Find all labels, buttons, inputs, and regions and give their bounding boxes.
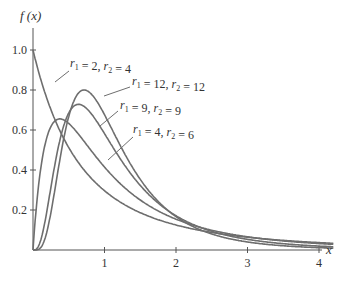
y-tick-label: 0.6 [12,123,27,137]
y-tick-label: 1.0 [12,43,27,57]
annotation-label: r1 = 4, r2 = 6 [133,122,194,142]
annotation-leader [108,137,133,160]
x-tick-label: 1 [102,256,108,270]
x-tick-label: 4 [316,256,322,270]
curve-r1-2-r2-4 [33,50,333,243]
x-tick-label: 2 [173,256,179,270]
annotation-label: r1 = 12, r2 = 12 [132,74,205,94]
x-axis-title: x [325,242,332,257]
curve-r1-9-r2-9 [33,104,333,250]
y-tick-label: 0.2 [12,203,27,217]
annotation-leader [104,87,130,96]
f-distribution-chart: 12340.20.40.60.81.0 r1 = 2, r2 = 4r1 = 1… [0,0,353,281]
annotation-label: r1 = 2, r2 = 4 [70,56,131,76]
annotation-label: r1 = 9, r2 = 9 [120,98,181,118]
y-tick-label: 0.4 [12,163,27,177]
annotation-leader [55,71,69,82]
x-tick-label: 3 [245,256,251,270]
y-tick-label: 0.8 [12,83,27,97]
y-axis-title: f (x) [20,8,41,23]
annotations: r1 = 2, r2 = 4r1 = 12, r2 = 12r1 = 9, r2… [55,56,205,160]
